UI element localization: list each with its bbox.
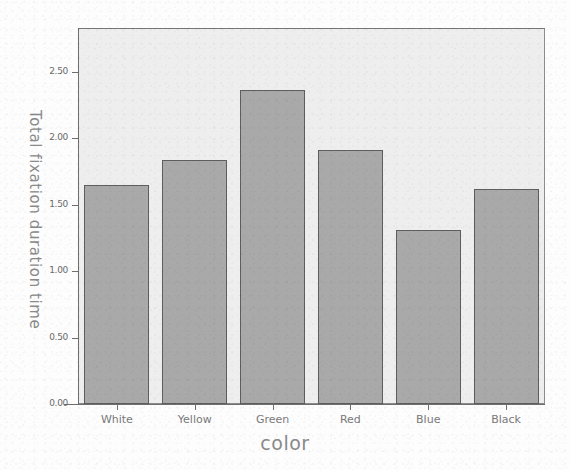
x-axis-line [64,404,545,405]
y-tick-mark [72,138,79,139]
x-tick-label-green: Green [256,413,289,426]
y-tick-label: 0.00 [28,398,68,408]
y-tick-mark [72,404,79,405]
y-tick-mark [72,205,79,206]
x-axis-title: color [0,432,570,454]
y-tick-mark [72,271,79,272]
y-tick-mark [72,338,79,339]
y-axis-line [78,28,79,405]
bar-black [474,189,539,404]
bar-red [318,150,383,404]
y-axis-title: Total fixation duration time [20,110,44,329]
x-tick-mark [506,404,507,410]
x-tick-label-white: White [101,413,133,426]
bar-white [84,185,149,404]
x-tick-mark [273,404,274,410]
bar-blue [396,230,461,404]
x-tick-mark [117,404,118,410]
bar-chart-figure: 0.000.501.001.502.002.50 WhiteYellowGree… [0,0,570,470]
bars-container [78,28,545,404]
x-tick-mark [350,404,351,410]
bar-green [240,90,305,404]
y-tick-label: 0.50 [28,332,68,342]
x-tick-mark [195,404,196,410]
bar-yellow [162,160,227,404]
x-tick-label-black: Black [491,413,521,426]
x-tick-label-red: Red [340,413,361,426]
x-tick-label-yellow: Yellow [178,413,212,426]
x-tick-mark [428,404,429,410]
y-tick-label: 2.50 [28,66,68,76]
y-tick-mark [72,72,79,73]
x-tick-label-blue: Blue [416,413,440,426]
